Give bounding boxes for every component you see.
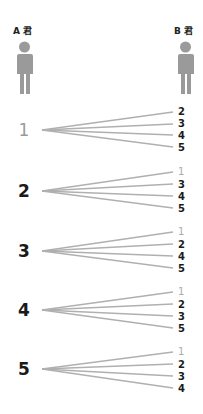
b-option: 3	[178, 118, 188, 129]
b-option: 1	[178, 166, 188, 177]
b-option: 2	[178, 299, 188, 310]
b-option: 4	[178, 130, 188, 141]
b-option: 1	[178, 346, 188, 357]
b-option: 4	[178, 191, 188, 202]
b-option: 1	[178, 286, 188, 297]
b-option: 5	[178, 203, 188, 214]
b-option: 3	[178, 311, 188, 322]
b-option: 2	[178, 239, 188, 250]
a-choice-5: 5	[14, 360, 34, 378]
a-choice-4: 4	[14, 301, 34, 319]
b-option: 3	[178, 179, 188, 190]
b-option: 1	[178, 226, 188, 237]
a-choice-3: 3	[14, 242, 34, 260]
b-option: 5	[178, 263, 188, 274]
choice-lines	[0, 0, 203, 414]
b-option: 2	[178, 106, 188, 117]
b-option: 2	[178, 359, 188, 370]
b-option: 5	[178, 142, 188, 153]
b-option: 4	[178, 383, 188, 394]
b-option: 4	[178, 251, 188, 262]
a-choice-1: 1	[14, 121, 34, 139]
b-option: 3	[178, 371, 188, 382]
b-option: 5	[178, 323, 188, 334]
a-choice-2: 2	[14, 182, 34, 200]
